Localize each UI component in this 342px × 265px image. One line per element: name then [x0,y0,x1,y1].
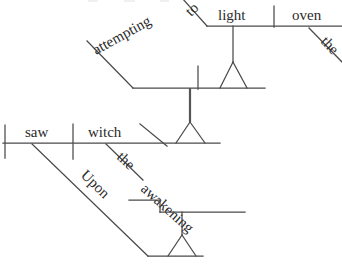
participial-triangle-right-leg [190,122,205,143]
label-the-oven-article: the [318,33,342,58]
group-main-clause: saw witch the Upon [3,122,220,256]
gerund-triangle-right-leg [182,235,196,256]
infinitive-triangle-left-leg [220,62,233,88]
clipped-artifact-2 [124,0,135,2]
label-witch: witch [88,124,122,140]
clipped-artifact-1 [88,0,98,2]
group-participial-clause: attempting [87,12,265,122]
label-awakening: awakening [138,180,197,236]
gerund-triangle-left-leg [168,235,182,256]
label-oven: oven [292,7,322,23]
label-the-witch-article: the [114,148,139,172]
label-saw: saw [25,124,48,140]
group-prepositional-phrase: awakening [129,180,245,256]
infinitive-triangle-right-leg [233,62,247,88]
sentence-diagram-canvas: to light oven the attempting [0,0,342,265]
label-light: light [218,7,246,23]
group-top-infinitive-clause: to light oven the [182,0,342,62]
diagram-svg: to light oven the attempting [0,0,342,265]
clipped-artifact-3 [160,0,169,2]
label-attempting: attempting [90,12,154,57]
group-clipped-top-artifacts [88,0,169,2]
label-upon: Upon [78,167,113,202]
participial-triangle-left-leg [176,122,190,143]
